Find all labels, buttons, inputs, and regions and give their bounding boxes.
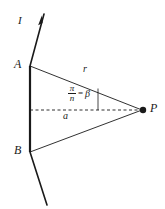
angle-expression: π n = β xyxy=(68,84,90,103)
angle-fraction: π n xyxy=(68,84,76,103)
physics-figure: I A B P r a π n = β xyxy=(0,0,165,209)
ray-b-to-p xyxy=(30,110,142,152)
distance-r-label: r xyxy=(83,64,87,74)
point-a-label: A xyxy=(14,58,21,70)
angle-numerator: π xyxy=(69,84,76,93)
point-p-label: P xyxy=(150,102,157,114)
distance-a-label: a xyxy=(63,111,68,121)
equals-sign: = xyxy=(78,89,83,98)
figure-canvas xyxy=(0,0,165,209)
point-p-marker xyxy=(140,107,146,113)
beta-symbol: β xyxy=(85,89,90,99)
wire-extension-lower xyxy=(30,152,47,205)
current-label: I xyxy=(18,15,22,26)
point-b-label: B xyxy=(14,144,21,156)
angle-denominator: n xyxy=(69,94,76,103)
